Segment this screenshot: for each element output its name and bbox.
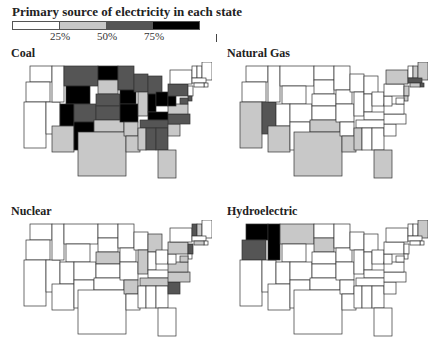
state-ar [340, 280, 354, 294]
state-nh [197, 66, 202, 78]
state-ny [386, 228, 408, 242]
state-ok [310, 120, 340, 132]
state-id [268, 66, 280, 102]
state-nj [404, 244, 409, 254]
state-fl [158, 308, 176, 336]
state-ms [354, 286, 362, 308]
state-sc [384, 124, 396, 136]
state-mi [148, 234, 162, 252]
state-tx [294, 132, 342, 176]
state-sc [168, 124, 180, 136]
state-sd [314, 80, 334, 94]
state-wi [350, 232, 364, 250]
legend-tick-75: 75% [144, 30, 164, 42]
state-oh [156, 250, 168, 264]
state-ma [192, 78, 206, 83]
state-in [364, 252, 372, 270]
state-ia [336, 90, 352, 104]
state-id [52, 224, 64, 260]
state-al [362, 286, 372, 308]
state-id [268, 224, 280, 260]
state-ri [420, 241, 424, 245]
state-wa [30, 224, 52, 240]
state-oh [372, 250, 384, 264]
state-mi [364, 234, 378, 252]
state-wi [134, 232, 148, 250]
legend-title: Primary source of electricity in each st… [12, 4, 242, 20]
state-wy [282, 86, 306, 104]
state-or [26, 82, 50, 102]
state-mn [334, 224, 350, 248]
panel-natural-gas: Natural Gas [216, 42, 432, 199]
state-ks [312, 106, 336, 120]
state-il [138, 250, 148, 274]
state-co [290, 104, 312, 122]
state-ca [24, 102, 46, 148]
state-il [138, 92, 148, 116]
map-hydroelectric [238, 220, 428, 345]
state-mi [364, 76, 378, 94]
state-ms [354, 128, 362, 150]
panel-hydroelectric: Hydroelectric [216, 200, 432, 357]
legend-tick-50: 50% [97, 30, 117, 42]
state-wa [30, 66, 52, 82]
panel-title: Nuclear [11, 204, 52, 219]
state-fl [374, 308, 392, 336]
state-in [148, 94, 156, 112]
state-nh [197, 224, 202, 236]
state-nh [413, 66, 418, 78]
state-il [354, 250, 364, 274]
state-ne [312, 252, 336, 264]
state-mn [118, 224, 134, 248]
state-az [268, 284, 290, 310]
state-wy [282, 244, 306, 262]
state-ca [240, 260, 262, 306]
state-vt [192, 66, 197, 78]
state-fl [158, 150, 176, 178]
state-wa [246, 224, 268, 240]
state-ok [310, 278, 340, 290]
state-me [202, 220, 212, 238]
state-fl [374, 150, 392, 178]
state-de [188, 254, 192, 259]
state-mo [120, 262, 138, 280]
state-vt [192, 224, 197, 236]
state-ct [194, 83, 204, 87]
state-ne [312, 94, 336, 106]
state-ky [148, 112, 170, 120]
state-ga [156, 128, 168, 150]
state-tx [78, 132, 126, 176]
state-ma [408, 78, 422, 83]
state-oh [372, 92, 384, 106]
state-mi [148, 76, 162, 94]
state-co [74, 262, 96, 280]
state-mo [120, 104, 138, 122]
panel-title: Natural Gas [227, 46, 290, 61]
state-pa [168, 242, 188, 254]
state-mn [118, 66, 134, 90]
state-ri [204, 241, 208, 245]
state-nj [188, 244, 193, 254]
state-nc [168, 272, 190, 282]
state-ca [24, 260, 46, 306]
state-ri [420, 83, 424, 87]
state-ny [386, 70, 408, 84]
state-in [148, 252, 156, 270]
panel-title: Hydroelectric [227, 204, 297, 219]
state-co [290, 262, 312, 280]
state-or [242, 82, 266, 102]
state-ks [96, 264, 120, 278]
legend-tick-25: 25% [50, 30, 70, 42]
state-tn [140, 278, 170, 286]
state-sc [168, 282, 180, 294]
state-nc [384, 114, 406, 124]
state-tx [78, 290, 126, 334]
panel-nuclear: Nuclear [0, 200, 216, 357]
state-wv [384, 96, 392, 106]
state-ky [364, 112, 386, 120]
state-vt [408, 66, 413, 78]
state-wy [66, 244, 90, 262]
state-ar [124, 280, 138, 294]
state-me [418, 220, 428, 238]
state-mt [64, 66, 98, 86]
